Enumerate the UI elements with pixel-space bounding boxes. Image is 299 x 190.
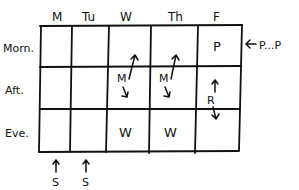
grid-line-right (239, 25, 242, 151)
grid-line-top (40, 25, 242, 26)
cell-friday-morning: P (213, 39, 221, 54)
arrow-down-icon (164, 87, 170, 97)
column-headers: M Tu W Th F (52, 10, 220, 24)
schedule-diagram: M Tu W Th F Morn. Aft. Eve. P M M R W W … (0, 0, 299, 190)
cell-wednesday-evening: W (119, 125, 132, 140)
arrow-up-icon (83, 160, 89, 172)
cell-thursday-afternoon: M (159, 72, 169, 85)
grid-line-m-tu (70, 26, 72, 152)
row-labels: Morn. Aft. Eve. (3, 42, 34, 140)
grid-line-bottom (39, 151, 238, 152)
cell-friday-afternoon: R (207, 94, 215, 107)
row-label-afternoon: Aft. (5, 84, 24, 97)
grid-line-th-f (195, 26, 198, 153)
row-label-evening: Eve. (5, 127, 29, 140)
arrow-up-icon (212, 80, 218, 92)
annotation-p-range: P...P (259, 39, 281, 52)
grid-line-w-th (149, 26, 151, 153)
annotation-tuesday-s: S (82, 176, 89, 189)
arrow-down-icon (122, 87, 128, 97)
column-header-friday: F (213, 10, 220, 24)
grid-line-tu-w (106, 26, 109, 152)
grid (39, 25, 242, 153)
annotation-monday-s: S (52, 176, 59, 189)
grid-line-left (39, 26, 41, 152)
row-label-morning: Morn. (3, 42, 34, 55)
column-header-monday: M (52, 10, 62, 24)
arrow-up-icon (53, 160, 59, 172)
grid-line-morn-aft (40, 66, 241, 67)
arrow-left-icon (246, 40, 256, 48)
column-header-thursday: Th (167, 10, 183, 24)
column-header-tuesday: Tu (81, 10, 95, 24)
cell-wednesday-afternoon: M (117, 72, 127, 85)
cell-thursday-evening: W (164, 125, 177, 140)
column-header-wednesday: W (120, 10, 132, 24)
